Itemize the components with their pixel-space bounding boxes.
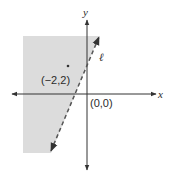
line-label: ℓ (99, 51, 104, 63)
point-label-origin: (0,0) (90, 97, 113, 109)
x-axis-label: x (157, 88, 163, 100)
point-label-neg2-2: (−2,2) (41, 74, 70, 86)
y-axis-label: y (82, 6, 88, 18)
graph-canvas: y x ℓ (−2,2) (0,0) (0, 0, 174, 177)
point-marker (67, 65, 70, 68)
